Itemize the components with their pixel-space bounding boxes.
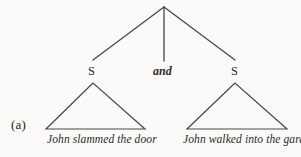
triangle-right-shape xyxy=(187,83,287,129)
s-node-right-label: S xyxy=(231,64,238,79)
branch-left-line xyxy=(93,7,164,60)
triangle-left-shape xyxy=(46,83,145,129)
leaf-clause-right-text: John walked into the garden xyxy=(183,133,301,145)
s-node-left-label: S xyxy=(88,64,95,79)
branch-right-line xyxy=(164,7,235,60)
syntax-tree-figure: (a) S and S John slammed the door John w… xyxy=(0,0,301,157)
figure-label-a: (a) xyxy=(11,117,26,133)
conjunction-and-label: and xyxy=(153,64,172,79)
leaf-clause-left-text: John slammed the door xyxy=(47,133,157,145)
